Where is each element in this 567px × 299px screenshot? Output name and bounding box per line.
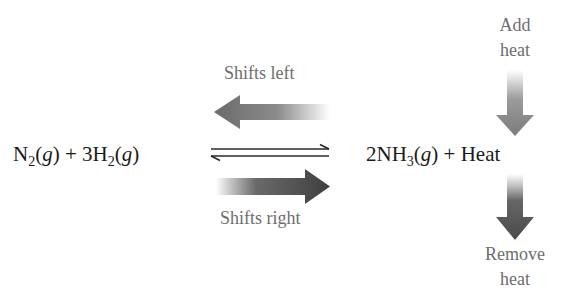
add-heat-label: Add heat	[475, 13, 555, 63]
heat-term: Heat	[461, 142, 501, 166]
nh3-formula: 2NH3(g)	[366, 142, 438, 166]
equilibrium-arrows-icon	[211, 145, 329, 161]
shift-right-arrow-icon	[216, 169, 330, 204]
shift-left-arrow-icon	[214, 95, 330, 129]
add-heat-arrow-icon	[496, 70, 534, 136]
add-heat-line2: heat	[475, 38, 555, 63]
shifts-right-label: Shifts right	[220, 209, 301, 227]
h2-formula: 3H2(g)	[82, 142, 139, 166]
reactants-side: N2(g) + 3H2(g)	[13, 144, 139, 165]
remove-heat-line2: heat	[472, 267, 558, 292]
n2-formula: N2(g)	[13, 142, 60, 166]
shifts-left-label: Shifts left	[224, 64, 295, 82]
reactant-plus: +	[65, 142, 77, 166]
products-side: 2NH3(g) + Heat	[366, 144, 500, 165]
product-plus: +	[444, 142, 456, 166]
remove-heat-label: Remove heat	[472, 242, 558, 292]
remove-heat-line1: Remove	[472, 242, 558, 267]
add-heat-line1: Add	[475, 13, 555, 38]
remove-heat-arrow-icon	[496, 174, 534, 240]
